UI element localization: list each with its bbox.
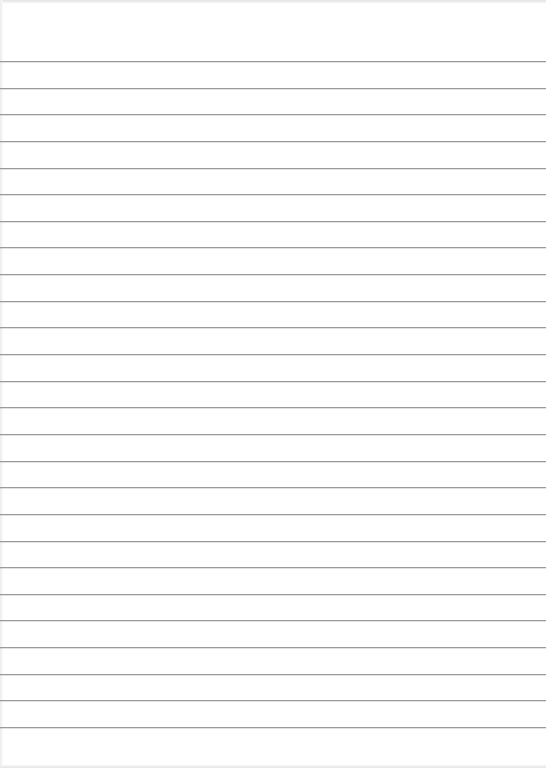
ruled-line: [0, 88, 546, 89]
ruled-line: [0, 647, 546, 648]
paper-left-edge: [0, 0, 3, 768]
ruled-line: [0, 61, 546, 62]
ruled-line: [0, 541, 546, 542]
ruled-line: [0, 221, 546, 222]
ruled-line: [0, 247, 546, 248]
ruled-line: [0, 487, 546, 488]
ruled-line: [0, 327, 546, 328]
ruled-line: [0, 434, 546, 435]
paper-top-edge: [0, 0, 546, 3]
ruled-line: [0, 301, 546, 302]
ruled-line: [0, 700, 546, 701]
lined-paper-page: [0, 0, 546, 768]
ruled-line: [0, 194, 546, 195]
ruled-line: [0, 674, 546, 675]
ruled-line: [0, 354, 546, 355]
ruled-line: [0, 620, 546, 621]
ruled-line: [0, 727, 546, 728]
ruled-line: [0, 141, 546, 142]
ruled-line: [0, 567, 546, 568]
ruled-line: [0, 381, 546, 382]
ruled-line: [0, 594, 546, 595]
ruled-line: [0, 114, 546, 115]
ruled-line: [0, 461, 546, 462]
ruled-line: [0, 168, 546, 169]
ruled-line: [0, 274, 546, 275]
ruled-line: [0, 407, 546, 408]
ruled-line: [0, 514, 546, 515]
